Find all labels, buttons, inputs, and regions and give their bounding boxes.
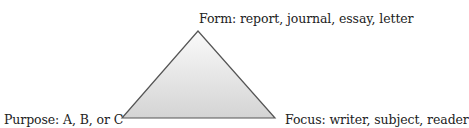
form-vertex-label: Form: report, journal, essay, letter [199, 13, 414, 26]
purpose-vertex-label: Purpose: A, B, or C [4, 114, 123, 127]
focus-vertex-label: Focus: writer, subject, reader [285, 114, 469, 127]
triangle-shape [122, 31, 275, 118]
